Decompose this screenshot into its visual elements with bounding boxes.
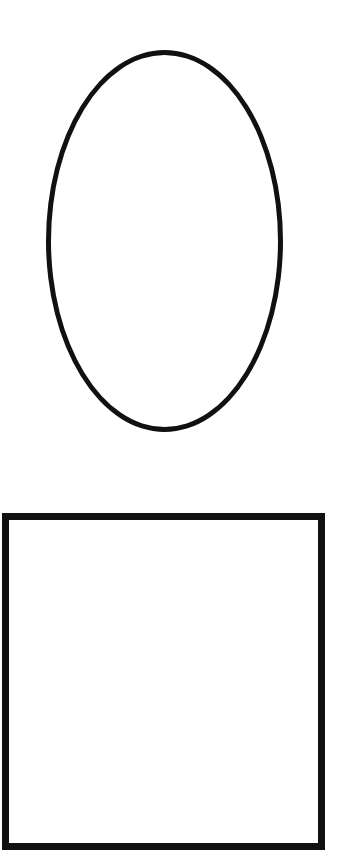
- square-shape: [2, 513, 325, 850]
- ellipse-shape: [46, 50, 283, 432]
